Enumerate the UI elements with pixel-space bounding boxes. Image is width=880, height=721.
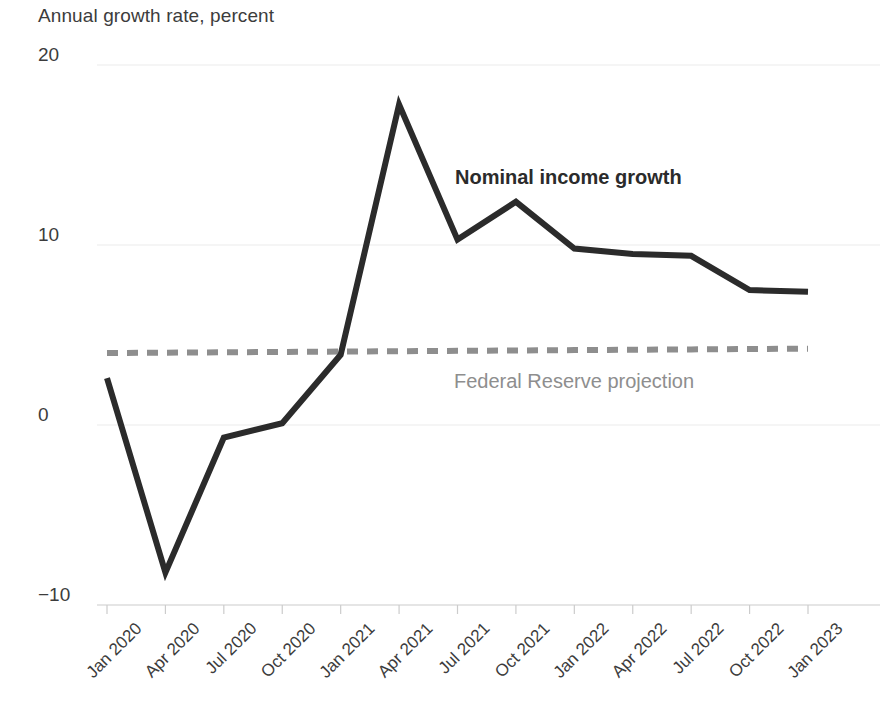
federal-reserve-projection-line: [107, 349, 808, 353]
y-axis-tick-label: 20: [38, 44, 59, 66]
series-label-nominal-income-growth: Nominal income growth: [455, 166, 682, 189]
y-axis-tick-label: −10: [38, 584, 70, 606]
chart-plot-area: [0, 0, 880, 721]
gridlines: [97, 65, 880, 605]
series-label-federal-reserve-projection: Federal Reserve projection: [454, 370, 694, 393]
y-axis-tick-label: 0: [38, 404, 49, 426]
chart-container: Annual growth rate, percent 20100−10 Jan…: [0, 0, 880, 721]
y-axis-tick-label: 10: [38, 224, 59, 246]
x-axis-ticks: [107, 605, 808, 614]
